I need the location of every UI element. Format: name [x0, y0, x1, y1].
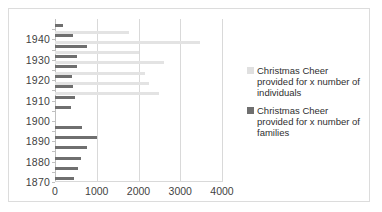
- bar-families-1890: [55, 136, 97, 139]
- bar-families-1930: [55, 55, 77, 58]
- plot-wrapper: 19401930192019101900189018801870 0100020…: [9, 9, 237, 203]
- y-tick-mark: [52, 141, 55, 142]
- x-tick-label: 1000: [85, 185, 108, 197]
- bar-families-1935: [55, 45, 87, 48]
- bar-families-1940: [55, 34, 73, 37]
- legend-label-families: Christmas Cheer provided for x number of…: [257, 105, 367, 138]
- x-tick-label: 4000: [210, 185, 233, 197]
- bar-families-1920: [55, 75, 72, 78]
- y-tick-mark: [52, 131, 55, 132]
- y-tick-label: 1910: [10, 96, 50, 106]
- bar-families-1905: [55, 106, 71, 109]
- x-tick-label: 3000: [169, 185, 192, 197]
- legend-item-individuals: Christmas Cheer provided for x number of…: [247, 65, 367, 98]
- legend-item-families: Christmas Cheer provided for x number of…: [247, 105, 367, 138]
- y-tick-mark: [52, 172, 55, 173]
- y-tick-mark: [52, 111, 55, 112]
- y-tick-label: 1880: [10, 157, 50, 167]
- bar-individuals-1930: [55, 51, 139, 54]
- bar-families-1910: [55, 96, 75, 99]
- chart-container: 19401930192019101900189018801870 0100020…: [8, 8, 370, 202]
- y-tick-mark: [52, 101, 55, 102]
- x-tick-label: 0: [52, 185, 58, 197]
- bar-families-1880: [55, 157, 81, 160]
- bar-individuals-1920: [55, 72, 145, 75]
- bar-individuals-1925: [55, 61, 164, 64]
- y-tick-label: 1900: [10, 116, 50, 126]
- x-tick-label: 2000: [127, 185, 150, 197]
- y-tick-mark: [52, 162, 55, 163]
- y-tick-label: 1940: [10, 34, 50, 44]
- bar-families-1945: [55, 24, 63, 27]
- plot-area: [55, 19, 222, 182]
- bar-individuals-1940: [55, 31, 129, 34]
- bar-families-1870: [55, 177, 74, 180]
- legend-swatch-icon-individuals: [247, 67, 254, 74]
- chart-legend: Christmas Cheer provided for x number of…: [247, 65, 367, 145]
- bar-individuals-1935: [55, 41, 200, 44]
- x-axis-line: [55, 181, 222, 182]
- gridline-4000: [222, 19, 223, 182]
- bar-individuals-1910: [55, 92, 159, 95]
- y-tick-label: 1870: [10, 177, 50, 187]
- bar-families-1915: [55, 85, 73, 88]
- bar-families-1885: [55, 146, 87, 149]
- bar-families-1895: [55, 126, 82, 129]
- y-tick-mark: [52, 182, 55, 183]
- bar-families-1875: [55, 167, 78, 170]
- bar-families-1925: [55, 65, 77, 68]
- y-axis-labels: 19401930192019101900189018801870: [9, 9, 50, 203]
- bar-individuals-1915: [55, 82, 149, 85]
- x-axis-labels: 01000200030004000: [55, 185, 222, 199]
- legend-swatch-icon-families: [247, 107, 254, 114]
- legend-label-individuals: Christmas Cheer provided for x number of…: [257, 65, 367, 98]
- y-tick-mark: [52, 121, 55, 122]
- y-tick-label: 1930: [10, 55, 50, 65]
- y-tick-mark: [52, 151, 55, 152]
- y-tick-label: 1920: [10, 75, 50, 85]
- y-tick-label: 1890: [10, 136, 50, 146]
